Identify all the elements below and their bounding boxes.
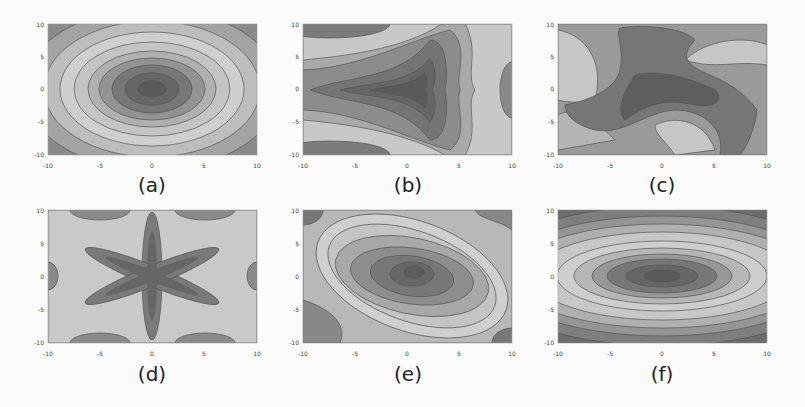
x-axis-ticks-c: -10 -5 0 5 10	[553, 162, 771, 169]
svg-text:5: 5	[202, 162, 206, 169]
svg-text:10: 10	[253, 162, 261, 169]
contour-panel-b: 10 5 0 -5 -10 -10 -5 0 5 10 (b)	[270, 0, 540, 200]
caption-d: (d)	[122, 362, 182, 386]
y-axis-ticks-e: 10 5 0 -5 -10	[289, 207, 299, 346]
caption-b: (b)	[378, 173, 438, 197]
svg-text:0: 0	[660, 350, 664, 357]
caption-f: (f)	[632, 362, 692, 386]
svg-text:-5: -5	[548, 118, 554, 125]
contour-plot-b: 10 5 0 -5 -10 -10 -5 0 5 10	[270, 0, 540, 200]
svg-text:5: 5	[457, 162, 461, 169]
svg-text:5: 5	[712, 350, 716, 357]
svg-text:-10: -10	[544, 339, 554, 346]
svg-text:10: 10	[36, 207, 44, 214]
svg-text:0: 0	[40, 85, 44, 92]
svg-text:0: 0	[40, 273, 44, 280]
x-axis-ticks-e: -10 -5 0 5 10	[298, 350, 516, 357]
svg-text:-10: -10	[553, 350, 563, 357]
svg-text:10: 10	[36, 21, 44, 28]
svg-text:-10: -10	[43, 350, 53, 357]
x-axis-ticks-a: -10 -5 0 5 10	[43, 162, 261, 169]
svg-text:10: 10	[763, 162, 771, 169]
svg-text:10: 10	[253, 350, 261, 357]
svg-text:10: 10	[763, 350, 771, 357]
caption-e: (e)	[378, 362, 438, 386]
contour-plot-a: 10 5 0 -5 -10 -10 -5 0 5 10	[0, 0, 270, 200]
svg-text:5: 5	[295, 53, 299, 60]
x-axis-ticks-b: -10 -5 0 5 10	[298, 162, 516, 169]
svg-text:0: 0	[295, 273, 299, 280]
x-axis-ticks-f: -10 -5 0 5 10	[553, 350, 771, 357]
svg-text:-10: -10	[289, 151, 299, 158]
svg-text:-5: -5	[38, 118, 44, 125]
svg-text:0: 0	[150, 350, 154, 357]
svg-text:0: 0	[405, 162, 409, 169]
svg-text:-10: -10	[34, 339, 44, 346]
y-axis-ticks-f: 10 5 0 -5 -10	[544, 207, 554, 346]
svg-text:-10: -10	[289, 339, 299, 346]
svg-text:0: 0	[550, 85, 554, 92]
svg-text:10: 10	[508, 350, 516, 357]
y-axis-ticks-a: 10 5 0 -5 -10	[34, 21, 44, 158]
svg-text:-5: -5	[97, 350, 103, 357]
svg-text:-10: -10	[43, 162, 53, 169]
svg-text:0: 0	[150, 162, 154, 169]
svg-text:-10: -10	[298, 350, 308, 357]
svg-text:5: 5	[712, 162, 716, 169]
caption-c: (c)	[632, 173, 692, 197]
svg-text:-5: -5	[352, 162, 358, 169]
svg-text:-10: -10	[298, 162, 308, 169]
svg-text:5: 5	[202, 350, 206, 357]
svg-text:10: 10	[546, 21, 554, 28]
svg-text:10: 10	[291, 21, 299, 28]
contour-plot-c: 10 5 0 -5 -10 -10 -5 0 5 10	[535, 0, 805, 200]
contour-panel-e: 10 5 0 -5 -10 -10 -5 0 5 10 (e)	[270, 200, 540, 407]
svg-text:-5: -5	[352, 350, 358, 357]
svg-text:0: 0	[660, 162, 664, 169]
svg-text:5: 5	[40, 53, 44, 60]
contour-panel-a: 10 5 0 -5 -10 -10 -5 0 5 10 (a)	[0, 0, 270, 200]
svg-text:-5: -5	[607, 162, 613, 169]
svg-text:-5: -5	[38, 306, 44, 313]
svg-text:-10: -10	[544, 151, 554, 158]
svg-text:-5: -5	[607, 350, 613, 357]
svg-text:5: 5	[457, 350, 461, 357]
y-axis-ticks-c: 10 5 0 -5 -10	[544, 21, 554, 158]
svg-text:0: 0	[550, 273, 554, 280]
contour-panel-d: 10 5 0 -5 -10 -10 -5 0 5 10 (d)	[0, 200, 270, 407]
svg-text:-5: -5	[97, 162, 103, 169]
svg-text:10: 10	[291, 207, 299, 214]
contour-panel-f: 10 5 0 -5 -10 -10 -5 0 5 10 (f)	[535, 200, 805, 407]
svg-text:5: 5	[550, 53, 554, 60]
svg-text:-10: -10	[553, 162, 563, 169]
svg-text:5: 5	[295, 240, 299, 247]
x-axis-ticks-d: -10 -5 0 5 10	[43, 350, 261, 357]
svg-text:-5: -5	[293, 306, 299, 313]
svg-text:5: 5	[550, 240, 554, 247]
contour-panel-c: 10 5 0 -5 -10 -10 -5 0 5 10 (c)	[535, 0, 805, 200]
svg-text:-5: -5	[548, 306, 554, 313]
svg-text:10: 10	[508, 162, 516, 169]
caption-a: (a)	[122, 173, 182, 197]
svg-text:5: 5	[40, 240, 44, 247]
svg-text:-10: -10	[34, 151, 44, 158]
svg-text:-5: -5	[293, 118, 299, 125]
svg-text:10: 10	[546, 207, 554, 214]
svg-text:0: 0	[295, 85, 299, 92]
svg-text:0: 0	[405, 350, 409, 357]
y-axis-ticks-b: 10 5 0 -5 -10	[289, 21, 299, 158]
y-axis-ticks-d: 10 5 0 -5 -10	[34, 207, 44, 346]
